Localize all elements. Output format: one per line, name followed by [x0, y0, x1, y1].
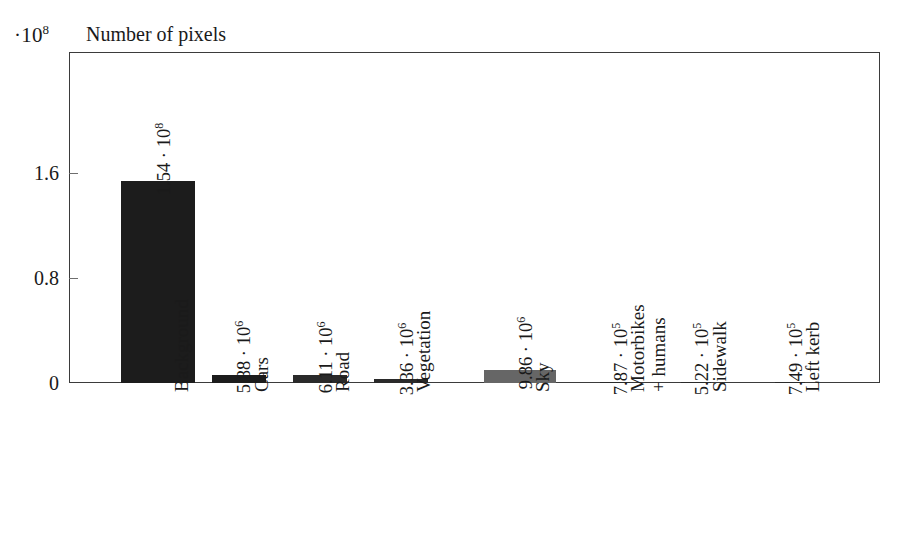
- y-axis-exponent-power: 8: [43, 22, 50, 37]
- y-axis-exponent-prefix: ·10: [14, 23, 43, 47]
- y-tick-label: 0.8: [34, 267, 59, 290]
- y-tick-label: 0: [49, 372, 59, 395]
- y-tick-label: 1.6: [34, 162, 59, 185]
- plot-area: [69, 52, 880, 383]
- y-tick-mark: [69, 278, 78, 279]
- y-tick-mark: [69, 173, 78, 174]
- y-axis-exponent: ·108: [14, 22, 49, 48]
- bar-chart: ·108 Number of pixels 00.81.6 1.54 · 108…: [0, 0, 901, 546]
- chart-title: Number of pixels: [86, 23, 226, 46]
